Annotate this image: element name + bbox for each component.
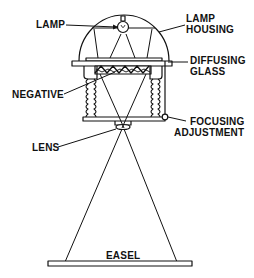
leader-lamp-housing xyxy=(159,25,185,32)
leader-lamp xyxy=(66,25,116,27)
focusing-knob-icon[interactable] xyxy=(162,114,168,120)
leader-focusing xyxy=(168,117,186,121)
label-lamp-housing-1: LAMP xyxy=(186,13,215,24)
right-side-block xyxy=(150,66,162,79)
label-focusing-adjustment-2: ADJUSTMENT xyxy=(174,127,244,138)
label-lens: LENS xyxy=(32,142,60,153)
flange-plate xyxy=(72,61,172,66)
label-diffusing-glass-2: GLASS xyxy=(190,66,226,77)
label-lamp-housing-2: HOUSING xyxy=(186,24,234,35)
negative-carrier xyxy=(95,66,151,74)
leader-lens xyxy=(58,129,116,147)
label-easel: EASEL xyxy=(106,250,140,261)
label-diffusing-glass-1: DIFFUSING xyxy=(190,55,246,66)
bellows-bottom-plate xyxy=(83,117,165,121)
right-bellows xyxy=(151,79,160,119)
label-negative: NEGATIVE xyxy=(12,89,64,100)
enlarger-diagram: LAMP LAMP HOUSING DIFFUSING GLASS NEGATI… xyxy=(0,0,254,278)
label-lamp: LAMP xyxy=(36,19,65,30)
label-focusing-adjustment-1: FOCUSING xyxy=(190,116,244,127)
lamp-bulb-icon xyxy=(118,16,129,33)
projection-cone xyxy=(65,129,177,262)
easel xyxy=(48,261,192,266)
left-bellows xyxy=(86,79,96,119)
